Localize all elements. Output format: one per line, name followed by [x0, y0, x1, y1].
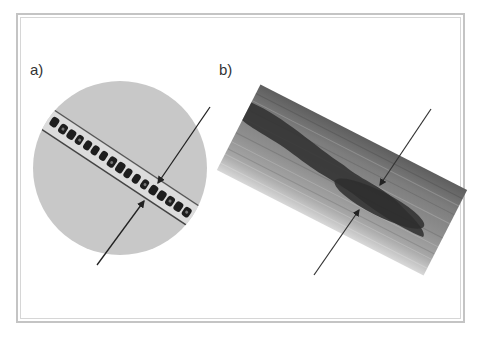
figure-graphics	[0, 0, 483, 338]
panel-b-fiber	[217, 85, 467, 276]
panel-a-micrograph	[22, 81, 218, 265]
